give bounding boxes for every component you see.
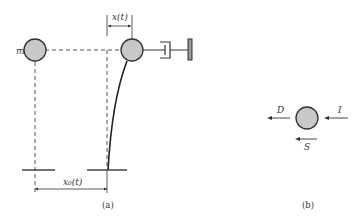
- spring-force-label: S: [304, 142, 310, 152]
- caption-a: (a): [102, 200, 114, 210]
- panel-b: D I S (b): [267, 105, 348, 210]
- free-body-mass: [296, 107, 318, 129]
- fixed-support: [188, 39, 192, 60]
- arrowhead-left-icon: [108, 25, 111, 28]
- ground-displacement-label: x₀(t): [63, 177, 83, 187]
- mass-displaced: [121, 39, 143, 61]
- arrowhead-right-icon: [104, 188, 107, 191]
- mass-label: m: [16, 46, 25, 56]
- arrowhead-icon: [267, 116, 272, 120]
- arrowhead-icon: [295, 137, 300, 141]
- inertia-force-label: I: [337, 105, 342, 115]
- mass-original: [24, 39, 46, 61]
- damping-force-label: D: [276, 105, 284, 115]
- arrowhead-right-icon: [128, 25, 131, 28]
- deflected-column: [108, 61, 127, 170]
- panel-a: m x(t) x₀(t) (a): [16, 12, 192, 210]
- arrowhead-icon: [324, 116, 329, 120]
- displacement-label: x(t): [112, 12, 128, 22]
- caption-b: (b): [302, 200, 314, 210]
- sdof-diagram: m x(t) x₀(t) (a) D: [0, 0, 360, 220]
